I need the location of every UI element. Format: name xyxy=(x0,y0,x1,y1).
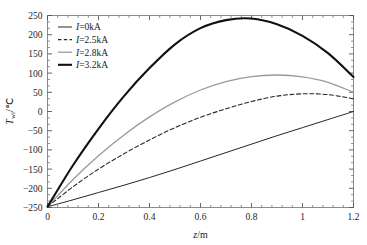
y-tick-label: −50 xyxy=(28,126,43,136)
x-tick-label: 0.6 xyxy=(195,212,207,222)
x-tick-label: 1.2 xyxy=(348,212,360,222)
y-tick-label: 200 xyxy=(28,30,43,40)
y-tick-label: −100 xyxy=(23,145,43,155)
legend-label-1: I=2.5kA xyxy=(75,35,108,45)
y-tick-label: 100 xyxy=(28,69,43,79)
legend-label-0: I=0kA xyxy=(75,22,101,32)
x-axis-unit: /m xyxy=(197,229,208,240)
y-axis-subscript: wi xyxy=(9,112,17,119)
y-tick-label: −250 xyxy=(23,203,43,213)
y-tick-label: 150 xyxy=(28,49,43,59)
y-tick-label: −200 xyxy=(23,184,43,194)
y-tick-label: 0 xyxy=(38,107,43,117)
chart-figure: 00.20.40.60.811.2250200150100500−50−100−… xyxy=(0,0,367,245)
legend-label-3: I=3.2kA xyxy=(75,60,108,70)
legend-value-3: =3.2kA xyxy=(79,60,108,70)
legend-label-2: I=2.8kA xyxy=(75,48,108,58)
x-tick-label: 0.8 xyxy=(246,212,258,222)
legend-value-2: =2.8kA xyxy=(79,48,108,58)
legend-value-0: =0kA xyxy=(79,22,101,32)
line-chart: 00.20.40.60.811.2250200150100500−50−100−… xyxy=(0,0,367,245)
x-tick-label: 0 xyxy=(45,212,50,222)
legend-value-1: =2.5kA xyxy=(79,35,108,45)
x-tick-label: 0.4 xyxy=(144,212,156,222)
y-axis-title: Twi/℃ xyxy=(4,98,17,124)
y-tick-label: −150 xyxy=(23,165,43,175)
x-tick-label: 1 xyxy=(300,212,305,222)
x-tick-label: 0.2 xyxy=(93,212,105,222)
y-axis-title-text: Twi/℃ xyxy=(4,98,17,124)
y-tick-label: 250 xyxy=(28,11,43,21)
y-tick-label: 50 xyxy=(33,88,43,98)
x-axis-title: z/m xyxy=(192,229,208,240)
y-axis-unit: /℃ xyxy=(4,98,15,112)
